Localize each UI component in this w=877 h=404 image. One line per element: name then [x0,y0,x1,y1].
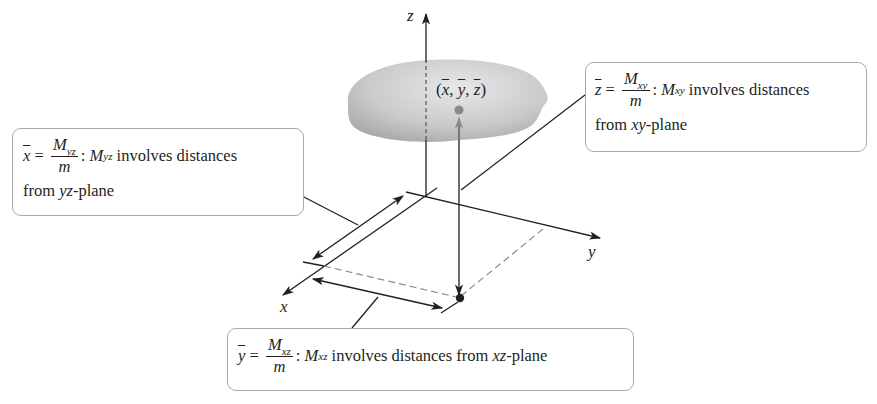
x-dimension-arrow [313,196,403,259]
projection-point [456,294,464,302]
x-bar-text-line2: from yz-plane [23,183,303,200]
x-bar-callout: x = Myz m : Myz involves distances from … [12,128,304,216]
z-bar-fraction: Mxy m [622,71,650,109]
y-bar-formula: y = Mxz m : Mxz involves distances from … [238,337,633,375]
x-bar-formula: x = Myz m : Myz involves distances [23,137,303,175]
y-callout-leader [352,297,378,328]
y-bar-fraction: Mxz m [266,337,293,375]
y-axis-label: y [588,242,596,262]
z-bar-text-line2: from xy-plane [595,117,866,134]
projection-dash-y [461,229,543,296]
x-axis [283,188,437,295]
x-callout-leader [300,195,358,225]
z-bar-formula: z = Mxy m : Mxy involves distances [595,71,866,109]
y-dimension-arrow [313,279,442,308]
projection-dash-x [324,266,456,297]
centroid-point [455,106,464,115]
solid-region [348,60,548,142]
y-axis [406,192,600,238]
x-bar-fraction: Myz m [51,137,78,175]
x-dimension-tick [303,262,324,266]
z-bar-callout: z = Mxy m : Mxy involves distances from … [585,62,867,152]
centroid-label: (x, y, z) [436,80,486,100]
z-axis-label: z [407,6,414,26]
y-bar-callout: y = Mxz m : Mxz involves distances from … [227,328,634,391]
x-axis-label: x [280,297,288,317]
y-dimension-tick [441,302,458,313]
